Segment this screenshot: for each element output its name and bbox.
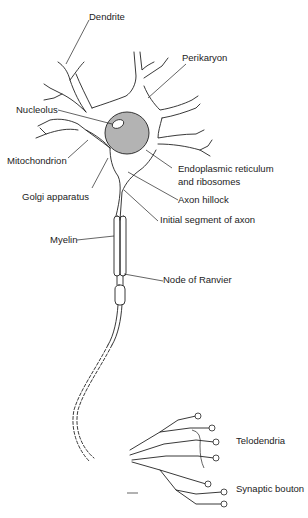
- label-perikaryon: Perikaryon: [182, 52, 227, 63]
- label-dendrite: Dendrite: [89, 11, 125, 22]
- label-node-of-ranvier: Node of Ranvier: [163, 274, 232, 285]
- label-ribosomes: and ribosomes: [178, 176, 240, 187]
- label-mitochondrion: Mitochondrion: [7, 155, 67, 166]
- nucleus: [105, 112, 149, 154]
- label-synaptic-bouton: Synaptic bouton: [236, 483, 304, 494]
- label-myelin: Myelin: [50, 234, 77, 245]
- label-nucleolus: Nucleolus: [16, 104, 58, 115]
- label-endoplasmic-reticulum: Endoplasmic reticulum: [178, 163, 274, 174]
- telodendria-branches: [130, 416, 222, 504]
- axon: [73, 216, 126, 462]
- label-telodendria: Telodendria: [236, 435, 285, 446]
- label-axon-hillock: Axon hillock: [178, 194, 229, 205]
- label-initial-segment: Initial segment of axon: [160, 214, 255, 225]
- label-golgi-apparatus: Golgi apparatus: [22, 191, 89, 202]
